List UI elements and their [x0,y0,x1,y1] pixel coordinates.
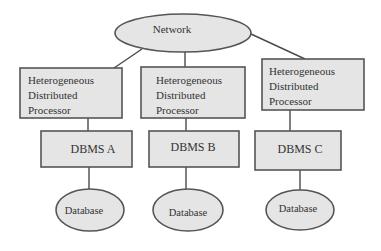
processor-1-line-2: Distributed [28,89,78,101]
database-node-b: Database [153,189,223,231]
processor-1-line-3: Processor [28,104,71,116]
processor-2-line-1: Heterogeneous [156,74,222,86]
processor-2-line-2: Distributed [156,89,206,101]
processor-3-line-2: Distributed [269,80,319,92]
database-node-a: Database [56,189,124,231]
network-label: Network [153,23,192,35]
edge-network-processor-1 [114,49,142,68]
database-b-label: Database [169,207,208,218]
processor-3-line-3: Processor [269,95,312,107]
database-c-label: Database [279,203,318,214]
processor-node-3: Heterogeneous Distributed Processor [262,59,364,110]
processor-1-line-1: Heterogeneous [28,74,94,86]
dbms-c-label: DBMS C [277,142,322,156]
dbms-node-b: DBMS B [149,131,239,167]
processor-2-line-3: Processor [156,104,199,116]
processor-node-1: Heterogeneous Distributed Processor [20,68,122,118]
dbms-a-label: DBMS A [70,142,115,156]
distributed-dbms-diagram: Network Heterogeneous Distributed Proces… [0,0,381,251]
dbms-node-a: DBMS A [41,131,132,167]
processor-node-2: Heterogeneous Distributed Processor [141,67,245,118]
dbms-node-c: DBMS C [255,131,341,170]
database-node-c: Database [266,190,334,230]
database-a-label: Database [65,205,104,216]
dbms-b-label: DBMS B [170,140,215,154]
edge-network-processor-3 [251,34,305,59]
processor-3-line-1: Heterogeneous [269,65,335,77]
network-node: Network [115,14,251,52]
